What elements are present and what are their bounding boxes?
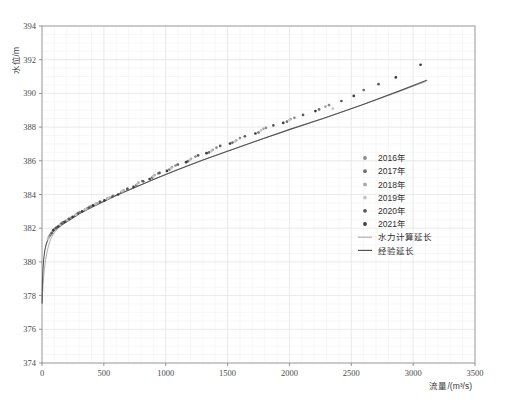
- data-point: [324, 105, 327, 108]
- legend-label: 2020年: [378, 206, 406, 216]
- y-axis-tick-label: 386: [23, 156, 36, 166]
- data-point: [197, 154, 200, 157]
- legend-marker-icon: [363, 209, 367, 213]
- data-point: [74, 213, 77, 216]
- data-point: [265, 127, 268, 130]
- legend-label: 2018年: [378, 180, 406, 190]
- data-point: [68, 218, 71, 221]
- data-point: [272, 124, 275, 127]
- x-axis-tick-label: 0: [40, 368, 44, 378]
- data-point: [215, 146, 218, 149]
- y-axis-tick-label: 394: [23, 21, 37, 31]
- data-point: [148, 178, 151, 181]
- data-point: [60, 222, 63, 225]
- data-point: [94, 203, 97, 206]
- data-point: [331, 107, 334, 110]
- legend-label: 2021年: [378, 219, 406, 229]
- data-point: [194, 155, 197, 158]
- legend-marker-icon: [363, 196, 367, 200]
- rating-curve-chart: 0500100015002000250030003500374376378380…: [0, 0, 506, 406]
- legend-marker-icon: [363, 156, 367, 160]
- data-point: [55, 227, 58, 230]
- data-point: [142, 180, 145, 183]
- data-point: [328, 104, 331, 107]
- data-point: [208, 151, 211, 154]
- x-axis-tick-label: 1500: [219, 368, 236, 378]
- data-point: [260, 129, 263, 132]
- y-axis-tick-label: 378: [23, 291, 36, 301]
- data-point: [282, 122, 285, 125]
- data-point: [111, 195, 114, 198]
- data-point: [92, 204, 95, 207]
- data-point: [288, 119, 291, 122]
- data-point: [219, 145, 222, 148]
- data-point: [87, 206, 90, 209]
- data-point: [229, 142, 232, 145]
- data-point: [120, 190, 123, 193]
- data-point: [47, 238, 50, 241]
- data-point: [50, 232, 53, 235]
- data-point: [57, 225, 60, 228]
- data-point: [52, 229, 55, 232]
- x-axis-tick-label: 3000: [405, 368, 422, 378]
- y-axis-tick-label: 392: [23, 55, 36, 65]
- data-point: [106, 197, 109, 200]
- data-point: [293, 116, 296, 119]
- data-point: [136, 183, 139, 186]
- data-point: [302, 114, 305, 117]
- x-axis-tick-label: 500: [97, 368, 110, 378]
- data-point: [262, 127, 265, 130]
- data-point: [77, 212, 80, 215]
- y-axis-tick-label: 382: [23, 223, 36, 233]
- data-point: [257, 131, 260, 134]
- legend-marker-icon: [363, 222, 367, 226]
- data-point: [126, 188, 129, 191]
- data-point: [158, 172, 161, 175]
- x-axis-tick-label: 2000: [281, 368, 298, 378]
- legend-label: 2016年: [378, 153, 406, 163]
- legend-label: 2017年: [378, 166, 406, 176]
- chart-figure: 0500100015002000250030003500374376378380…: [0, 0, 506, 406]
- x-axis-tick-label: 3500: [467, 368, 484, 378]
- data-point: [340, 100, 343, 103]
- data-point: [152, 175, 155, 178]
- data-point: [318, 108, 321, 111]
- data-point: [117, 193, 120, 196]
- data-point: [239, 137, 242, 140]
- data-point: [419, 63, 422, 66]
- data-point: [362, 89, 365, 92]
- y-axis-tick-label: 388: [23, 122, 36, 132]
- x-axis-tick-label: 2500: [343, 368, 360, 378]
- x-axis-title: 流量/(m³/s): [429, 381, 472, 391]
- data-point: [63, 220, 66, 223]
- legend-label: 2019年: [378, 193, 406, 203]
- data-point: [176, 163, 179, 166]
- legend-label: 经验延长: [378, 246, 414, 256]
- data-point: [188, 159, 191, 162]
- data-point: [205, 152, 208, 155]
- data-point: [166, 170, 169, 173]
- legend-label: 水力计算延长: [378, 232, 432, 242]
- data-point: [185, 161, 188, 164]
- y-axis-tick-label: 380: [23, 257, 36, 267]
- data-point: [254, 132, 257, 135]
- data-point: [103, 199, 106, 202]
- legend-marker-icon: [363, 183, 367, 187]
- data-point: [377, 83, 380, 86]
- legend-marker-icon: [363, 169, 367, 173]
- y-axis-tick-label: 390: [23, 88, 36, 98]
- data-point: [314, 110, 317, 113]
- data-point: [210, 150, 213, 153]
- data-point: [244, 135, 247, 138]
- data-point: [352, 95, 355, 98]
- data-point: [231, 141, 234, 144]
- data-point: [81, 210, 84, 213]
- y-axis-title: 水位/m: [11, 47, 21, 74]
- y-axis-tick-label: 376: [23, 324, 36, 334]
- data-point: [234, 140, 237, 143]
- data-point: [394, 76, 397, 79]
- data-point: [286, 120, 289, 123]
- data-point: [169, 167, 172, 170]
- y-axis-tick-label: 384: [23, 190, 37, 200]
- data-point: [71, 215, 74, 218]
